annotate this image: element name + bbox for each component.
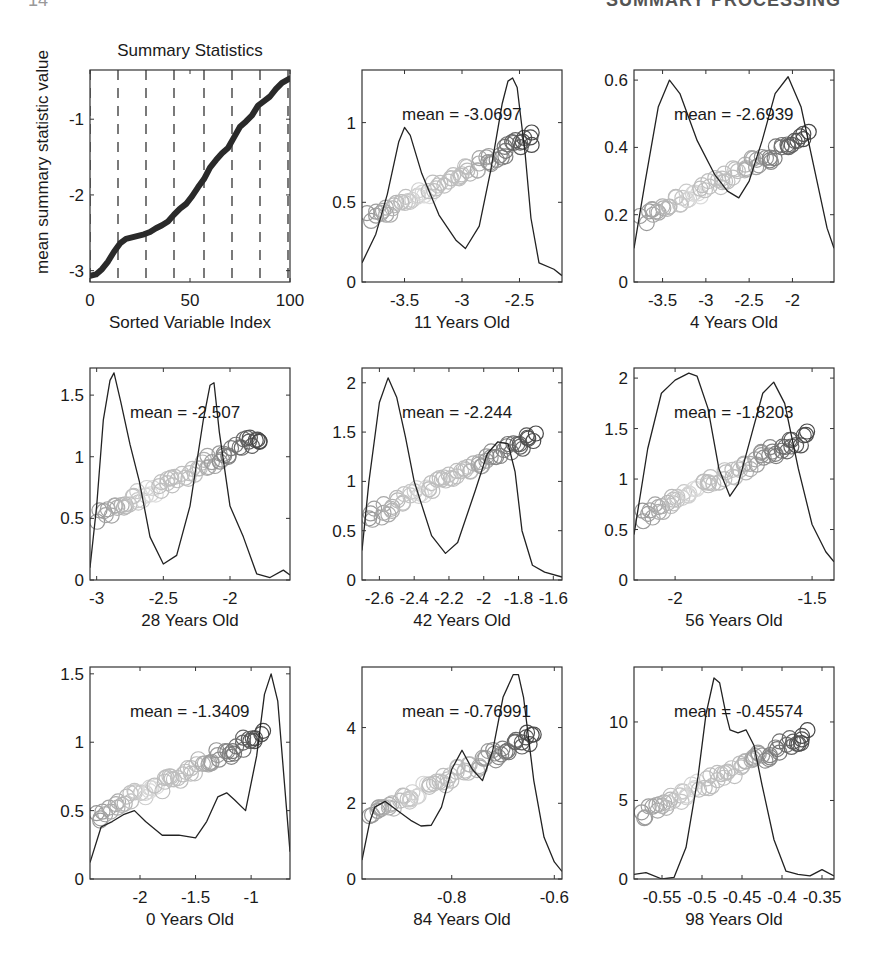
x-axis-label: 56 Years Old	[685, 611, 782, 630]
y-tick-label: 0	[347, 870, 356, 889]
y-tick-label: 1	[75, 448, 84, 467]
axes-frame	[634, 667, 834, 879]
y-tick-label: -2	[69, 186, 84, 205]
y-tick-label: -3	[69, 262, 84, 281]
y-tick-label: 0.4	[604, 138, 628, 157]
x-axis-label: 0 Years Old	[146, 910, 234, 929]
x-axis-label: 84 Years Old	[413, 910, 510, 929]
x-axis-label: 42 Years Old	[413, 611, 510, 630]
y-tick-label: 0.5	[332, 193, 356, 212]
x-tick-label: -2	[476, 589, 491, 608]
x-tick-label: -3	[454, 291, 469, 310]
x-tick-label: -1.8	[504, 589, 533, 608]
density-curve	[634, 373, 834, 562]
x-axis-label: 28 Years Old	[141, 611, 238, 630]
figure-grid: 050100-3-2-1Summary Statisticsmean summa…	[0, 0, 881, 978]
x-tick-label: -2	[132, 888, 147, 907]
x-tick-label: -0.55	[643, 888, 682, 907]
y-tick-label: 1.5	[332, 423, 356, 442]
x-tick-label: -2.2	[434, 589, 463, 608]
y-axis-label: mean summary statistic value	[33, 50, 52, 274]
panel-age28: -3-2.5-200.511.5mean = -2.50728 Years Ol…	[60, 368, 290, 630]
x-tick-label: 50	[181, 291, 200, 310]
y-tick-label: 0.6	[604, 71, 628, 90]
y-tick-label: 0	[619, 571, 628, 590]
x-axis-label: Sorted Variable Index	[109, 313, 272, 332]
y-tick-label: 0.2	[604, 206, 628, 225]
x-tick-label: -2	[222, 589, 237, 608]
y-tick-label: 1	[347, 472, 356, 491]
summary-line	[90, 78, 290, 276]
x-tick-label: -2.5	[735, 291, 764, 310]
y-tick-label: 0	[347, 571, 356, 590]
mean-annotation: mean = -0.45574	[674, 702, 803, 721]
panel-age84: -0.8-0.6024mean = -0.7699184 Years Old	[347, 667, 569, 929]
y-tick-label: -1	[69, 110, 84, 129]
x-tick-label: -0.6	[540, 888, 569, 907]
x-tick-label: -3.5	[648, 291, 677, 310]
y-tick-label: 1	[75, 733, 84, 752]
y-tick-label: 2	[347, 794, 356, 813]
x-tick-label: -0.4	[767, 888, 796, 907]
x-tick-label: -2	[668, 589, 683, 608]
x-tick-label: -0.8	[437, 888, 466, 907]
x-tick-label: -1.6	[539, 589, 568, 608]
mean-annotation: mean = -1.3409	[130, 702, 250, 721]
y-tick-label: 0	[347, 273, 356, 292]
mean-annotation: mean = -3.0697	[402, 105, 522, 124]
y-tick-label: 2	[619, 369, 628, 388]
y-tick-label: 0	[75, 571, 84, 590]
y-tick-label: 10	[609, 713, 628, 732]
x-axis-label: 98 Years Old	[685, 910, 782, 929]
x-axis-label: 11 Years Old	[414, 313, 510, 332]
x-tick-label: -2	[785, 291, 800, 310]
panel-age4: -3.5-3-2.5-200.20.40.6mean = -2.69394 Ye…	[604, 70, 834, 332]
x-tick-label: -2.4	[400, 589, 429, 608]
x-tick-label: -2.5	[505, 291, 534, 310]
y-tick-label: 0.5	[60, 509, 84, 528]
scatter-point	[367, 501, 382, 516]
x-axis-label: 4 Years Old	[690, 313, 778, 332]
x-tick-label: 0	[85, 291, 94, 310]
y-tick-label: 1.5	[60, 665, 84, 684]
x-tick-label: -1.5	[797, 589, 826, 608]
panel-age0: -2-1.5-100.511.5mean = -1.34090 Years Ol…	[60, 665, 290, 929]
mean-annotation: mean = -2.244	[402, 403, 512, 422]
x-tick-label: 100	[276, 291, 304, 310]
mean-annotation: mean = -1.8203	[674, 403, 794, 422]
x-tick-label: -0.5	[687, 888, 716, 907]
panel-age56: -2-1.500.511.52mean = -1.820356 Years Ol…	[604, 368, 834, 630]
y-tick-label: 2	[347, 374, 356, 393]
x-tick-label: -2.6	[365, 589, 394, 608]
y-tick-label: 1.5	[60, 386, 84, 405]
x-tick-label: -3	[698, 291, 713, 310]
y-tick-label: 0.5	[332, 522, 356, 541]
y-tick-label: 1	[347, 114, 356, 133]
y-tick-label: 4	[347, 719, 356, 738]
y-tick-label: 0.5	[604, 521, 628, 540]
chart-title: Summary Statistics	[117, 41, 262, 60]
panel-age98: -0.55-0.5-0.45-0.4-0.350510mean = -0.455…	[609, 667, 841, 929]
y-tick-label: 0	[619, 273, 628, 292]
panel-age11: -3.5-3-2.500.51mean = -3.069711 Years Ol…	[332, 70, 562, 332]
x-tick-label: -2.5	[149, 589, 178, 608]
mean-annotation: mean = -0.76991	[402, 702, 531, 721]
y-tick-label: 0	[619, 870, 628, 889]
y-tick-label: 1	[619, 470, 628, 489]
y-tick-label: 5	[619, 791, 628, 810]
x-tick-label: -0.45	[723, 888, 762, 907]
y-tick-label: 0.5	[60, 802, 84, 821]
x-tick-label: -3.5	[390, 291, 419, 310]
x-tick-label: -0.35	[803, 888, 842, 907]
panel-summary: 050100-3-2-1Summary Statisticsmean summa…	[33, 41, 304, 332]
y-tick-label: 1.5	[604, 420, 628, 439]
x-tick-label: -1	[244, 888, 259, 907]
x-tick-label: -1.5	[181, 888, 210, 907]
x-tick-label: -3	[89, 589, 104, 608]
mean-annotation: mean = -2.6939	[674, 105, 794, 124]
axes-frame	[362, 368, 562, 580]
mean-annotation: mean = -2.507	[130, 403, 240, 422]
y-tick-label: 0	[75, 870, 84, 889]
panel-age42: -2.6-2.4-2.2-2-1.8-1.600.511.52mean = -2…	[332, 368, 568, 630]
